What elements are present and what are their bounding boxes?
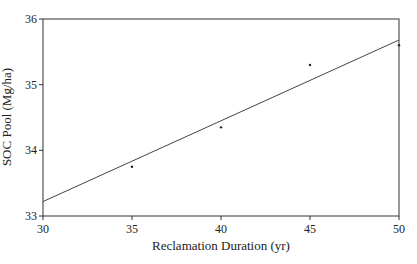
x-axis-ticks: 3035404550	[37, 216, 405, 236]
x-axis-title: Reclamation Duration (yr)	[152, 238, 290, 253]
regression-line	[43, 40, 399, 202]
data-point	[398, 44, 400, 46]
scatter-chart: 33343536 3035404550 Reclamation Duration…	[0, 0, 417, 264]
x-tick-label: 45	[304, 222, 316, 236]
y-tick-label: 36	[25, 12, 37, 26]
plot-frame	[43, 19, 399, 216]
fit-line	[43, 40, 399, 202]
y-tick-label: 35	[25, 78, 37, 92]
y-axis-title: SOC Pool (Mg/ha)	[0, 68, 14, 166]
data-point	[309, 64, 311, 66]
x-tick-label: 35	[126, 222, 138, 236]
y-tick-label: 33	[25, 209, 37, 223]
plot-border	[43, 19, 399, 216]
y-axis-ticks: 33343536	[25, 12, 43, 223]
x-tick-label: 40	[215, 222, 227, 236]
x-tick-label: 50	[393, 222, 405, 236]
y-tick-label: 34	[25, 143, 37, 157]
x-tick-label: 30	[37, 222, 49, 236]
data-point	[131, 166, 133, 168]
data-points	[131, 44, 400, 168]
data-point	[220, 126, 222, 128]
